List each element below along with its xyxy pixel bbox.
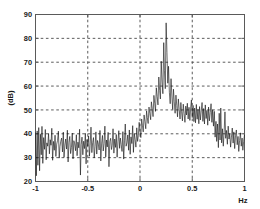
x-tick-label: 1 — [242, 184, 246, 193]
y-tick-label: 60 — [24, 82, 32, 91]
grid-lines — [36, 15, 245, 182]
x-tick-label: -1 — [32, 184, 39, 193]
y-axis-tick-labels: 2030405060708090 — [24, 10, 32, 186]
y-tick-label: 50 — [24, 106, 32, 115]
figure-screen: 2030405060708090 -1-0.500.51 (dB) Hz — [0, 0, 260, 209]
x-tick-label: 0.5 — [187, 184, 197, 193]
y-tick-label: 30 — [24, 153, 32, 162]
y-tick-label: 40 — [24, 129, 32, 138]
x-tick-label: 0 — [138, 184, 142, 193]
y-tick-label: 90 — [24, 10, 32, 19]
y-tick-label: 80 — [24, 34, 32, 43]
y-tick-label: 20 — [24, 177, 32, 186]
spectrum-chart-svg: 2030405060708090 -1-0.500.51 (dB) Hz — [0, 0, 260, 209]
y-tick-label: 70 — [24, 58, 32, 67]
y-axis-title: (dB) — [6, 90, 15, 106]
x-axis-tick-labels: -1-0.500.51 — [32, 184, 246, 193]
spectrum-plot-figure: 2030405060708090 -1-0.500.51 (dB) Hz — [0, 0, 260, 209]
x-axis-title: Hz — [238, 196, 247, 205]
x-tick-label: -0.5 — [81, 184, 94, 193]
